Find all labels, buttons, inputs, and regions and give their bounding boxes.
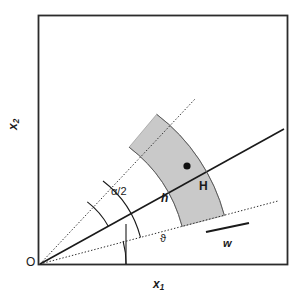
theta-angle-label: ϑ xyxy=(160,233,166,244)
point-H-label: H xyxy=(199,180,208,192)
x-axis-label: x1 xyxy=(153,278,164,292)
geometry-diagram xyxy=(0,0,303,305)
point-H-marker xyxy=(183,162,190,169)
alpha-half-angle-arc xyxy=(87,202,108,226)
y-axis-label: x2 xyxy=(7,119,21,130)
width-w-label: w xyxy=(223,238,232,249)
figure-canvas: x1 x2 O α/2 h ϑ H w xyxy=(0,0,303,305)
radius-h-label: h xyxy=(161,192,168,204)
lower-boundary-ray xyxy=(40,201,278,264)
half-angle-label: α/2 xyxy=(111,186,127,197)
origin-label: O xyxy=(26,256,35,268)
width-marker-bar xyxy=(206,223,249,232)
